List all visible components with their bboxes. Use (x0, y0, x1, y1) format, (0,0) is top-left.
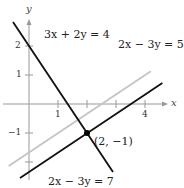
tick-label-y-1: 1 (16, 70, 22, 79)
tick-label-x-1: 1 (55, 110, 61, 119)
x-axis-arrow-icon (162, 102, 168, 107)
y-axis-label: y (26, 4, 32, 14)
tick-label-y-neg1: −1 (8, 128, 21, 137)
tick-label-y-2: 2 (15, 41, 21, 50)
label-eq-2x-3y-5: 2x − 3y = 5 (118, 39, 184, 50)
x-axis-label: x (171, 98, 177, 108)
line-2x-3y-7 (20, 83, 162, 178)
label-eq-2x-3y-7: 2x − 3y = 7 (48, 176, 114, 187)
y-axis-arrow-icon (27, 19, 32, 25)
line-2x-3y-5 (9, 71, 151, 166)
label-point-2-neg1: (2, −1) (94, 136, 133, 147)
intersection-point (84, 130, 90, 136)
label-eq-3x-2y-4: 3x + 2y = 4 (44, 29, 110, 40)
tick-label-x-4: 4 (142, 110, 148, 119)
